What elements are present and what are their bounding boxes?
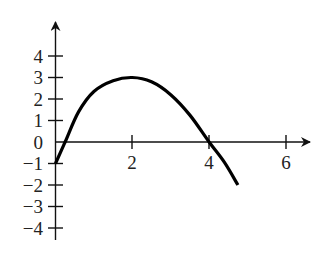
y-label-2: 2 bbox=[34, 89, 44, 110]
x-label-2: 2 bbox=[127, 152, 137, 173]
y-label-neg2: −2 bbox=[23, 175, 43, 196]
function-graph: 2 4 6 4 3 2 1 0 −1 −2 −3 −4 bbox=[0, 0, 331, 254]
y-label-1: 1 bbox=[34, 110, 44, 131]
y-label-neg3: −3 bbox=[23, 196, 43, 217]
y-label-0: 0 bbox=[34, 132, 44, 153]
y-label-4: 4 bbox=[34, 46, 44, 67]
x-label-6: 6 bbox=[281, 152, 291, 173]
y-label-3: 3 bbox=[34, 67, 44, 88]
x-label-4: 4 bbox=[204, 152, 214, 173]
y-tick-labels: 4 3 2 1 0 −1 −2 −3 −4 bbox=[23, 46, 44, 239]
y-label-neg4: −4 bbox=[23, 218, 44, 239]
x-tick-labels: 2 4 6 bbox=[127, 152, 291, 173]
y-label-neg1: −1 bbox=[23, 153, 43, 174]
